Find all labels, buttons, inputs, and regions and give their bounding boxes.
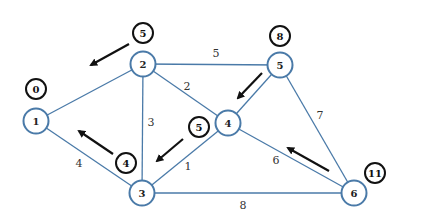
edge-5-6 — [280, 65, 354, 193]
distance-badge-node-1: 0 — [26, 79, 46, 99]
edge-weight-3-6: 8 — [240, 199, 247, 212]
node-2: 2 — [131, 52, 156, 77]
node-1: 1 — [24, 109, 49, 134]
dijkstra-graph-diagram: 52341768 123456 0545811 — [0, 0, 422, 223]
distance-value: 5 — [140, 28, 147, 39]
node-label: 3 — [139, 188, 146, 199]
edge-2-3 — [142, 64, 143, 193]
arrow-near-node-5-icon — [238, 73, 262, 98]
distance-badge-node-3: 4 — [116, 153, 136, 173]
edge-2-4 — [143, 64, 228, 123]
edge-weight-5-6: 7 — [317, 109, 324, 122]
node-label: 5 — [277, 60, 284, 71]
distance-value: 8 — [277, 31, 284, 42]
edge-weight-1-3: 4 — [76, 157, 83, 170]
edge-weight-4-6: 6 — [273, 154, 280, 167]
distance-badge-node-2: 5 — [133, 23, 153, 43]
edge-weight-3-4: 1 — [185, 160, 192, 173]
edge-weight-2-5: 5 — [213, 47, 220, 60]
distance-badge-node-4: 5 — [189, 117, 209, 137]
node-label: 2 — [140, 59, 147, 70]
edge-3-4 — [142, 123, 228, 193]
node-5: 5 — [268, 53, 293, 78]
distance-value: 0 — [33, 84, 40, 95]
distance-value: 4 — [123, 158, 130, 169]
node-label: 1 — [33, 116, 40, 127]
node-3: 3 — [130, 181, 155, 206]
edge-4-6 — [228, 123, 354, 193]
node-label: 4 — [225, 118, 232, 129]
edge-weight-2-4: 2 — [184, 80, 191, 93]
node-6: 6 — [342, 181, 367, 206]
edge-weight-2-3: 3 — [148, 116, 155, 129]
distance-badge-node-5: 8 — [270, 26, 290, 46]
edge-1-2 — [36, 64, 143, 121]
node-4: 4 — [216, 111, 241, 136]
node-label: 6 — [351, 188, 358, 199]
distance-badge-node-6: 11 — [365, 163, 385, 183]
edge-2-5 — [143, 64, 280, 65]
arrow-near-node-4-icon — [157, 139, 183, 161]
arrow-near-node-2-icon — [91, 44, 129, 65]
distance-value: 5 — [196, 122, 203, 133]
arrow-near-node-3-icon — [79, 131, 113, 154]
distance-value: 11 — [368, 168, 382, 179]
